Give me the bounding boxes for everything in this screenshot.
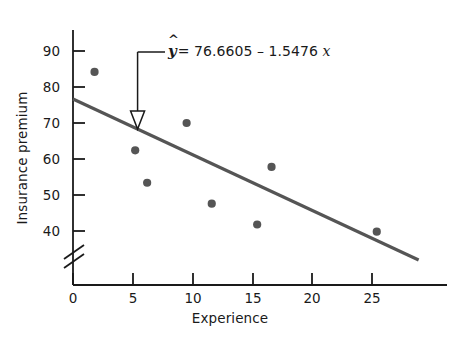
data-point <box>253 220 261 228</box>
regression-line <box>73 99 419 260</box>
data-point <box>90 68 98 76</box>
y-tick-label-90: 90 <box>20 43 60 59</box>
data-point <box>208 200 216 208</box>
data-point <box>131 146 139 154</box>
x-tick-label-5: 5 <box>113 290 153 306</box>
equals-sign: = <box>178 43 190 59</box>
x-symbol: x <box>322 43 330 59</box>
data-points <box>90 68 380 236</box>
x-tick-label-0: 0 <box>53 290 93 306</box>
x-tick-label-25: 25 <box>352 290 392 306</box>
y-axis-title: Insurance premium <box>14 68 30 248</box>
x-axis-title: Experience <box>150 310 310 326</box>
annotation-leader <box>131 52 165 129</box>
x-tick-label-20: 20 <box>292 290 332 306</box>
x-tick-label-15: 15 <box>233 290 273 306</box>
x-tick-label-10: 10 <box>173 290 213 306</box>
data-point <box>183 119 191 127</box>
scatter-plot-figure: 90 80 70 60 50 40 0 5 10 15 20 25 Insura… <box>0 0 456 337</box>
y-axis-break-marker <box>64 245 84 268</box>
hat-accent: ^ <box>168 33 178 46</box>
data-point <box>373 228 381 236</box>
y-axis-ticks <box>73 51 85 231</box>
minus-sign: – <box>257 43 264 59</box>
regression-equation-annotation: ^y= 76.6605 – 1.5476 x <box>168 42 330 60</box>
x-axis-ticks <box>73 273 372 285</box>
data-point <box>267 163 275 171</box>
yhat-symbol: ^y <box>168 42 178 60</box>
data-point <box>143 179 151 187</box>
intercept-value: 76.6605 <box>194 43 253 59</box>
slope-value: 1.5476 <box>268 43 318 59</box>
